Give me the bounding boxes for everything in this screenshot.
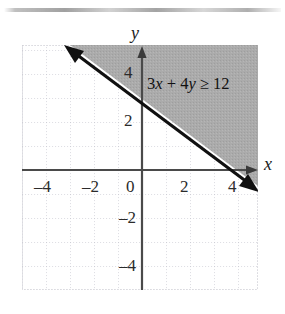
ytick-label-2: 2 (124, 112, 133, 129)
inequality-relation: ≥ (200, 74, 209, 93)
ytick-label--4: –4 (119, 257, 136, 274)
xtick-label-0: 0 (126, 178, 135, 195)
inequality-plus: + (167, 74, 176, 93)
inequality-var-x: x (155, 74, 162, 93)
xtick-label--2: –2 (82, 178, 99, 195)
xtick-label-2: 2 (180, 178, 189, 195)
plot-labels: –4 –2 0 2 4 4 2 –2 –4 y x 3x + 4y ≥ 12 (0, 0, 285, 314)
y-axis-name: y (131, 24, 139, 42)
ytick-label--2: –2 (119, 209, 136, 226)
ytick-label-4: 4 (124, 64, 133, 81)
xtick-label-4: 4 (228, 178, 237, 195)
xtick-label--4: –4 (34, 178, 51, 195)
inequality-coef-x: 3 (147, 74, 155, 93)
inequality-var-y: y (188, 74, 195, 93)
x-axis-name: x (264, 155, 272, 173)
inequality-constant: 12 (213, 74, 230, 93)
inequality-annotation: 3x + 4y ≥ 12 (147, 76, 230, 93)
